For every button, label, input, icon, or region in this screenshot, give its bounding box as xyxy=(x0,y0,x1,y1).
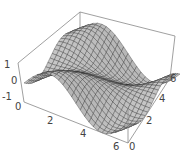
x-tick-2: 2 xyxy=(47,115,53,126)
y-tick-6: 6 xyxy=(170,73,176,84)
z-axis-ticks: 1 0 -1 xyxy=(2,59,17,102)
x-tick-6: 6 xyxy=(113,141,119,152)
z-tick-1: 1 xyxy=(4,59,10,70)
y-tick-4: 4 xyxy=(159,93,165,104)
x-tick-4: 4 xyxy=(80,128,86,139)
x-tick-0: 0 xyxy=(15,101,21,112)
z-tick-minus1: -1 xyxy=(2,91,12,102)
z-tick-0: 0 xyxy=(11,75,17,86)
surface-plot: 1 0 -1 0 2 4 6 0 2 4 6 xyxy=(0,0,184,161)
y-tick-2: 2 xyxy=(146,115,152,126)
y-tick-0: 0 xyxy=(129,141,135,152)
